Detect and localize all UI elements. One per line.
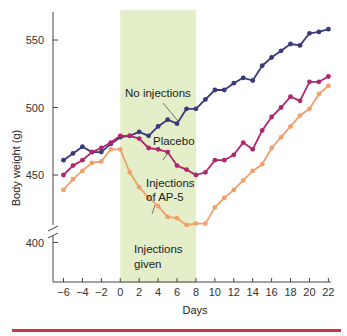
data-point <box>61 188 66 193</box>
data-point <box>90 160 95 165</box>
data-point <box>279 135 284 140</box>
data-point <box>250 147 255 152</box>
x-tick-label: 16 <box>265 286 277 298</box>
data-point <box>175 121 180 126</box>
data-point <box>279 48 284 53</box>
data-point <box>184 167 189 172</box>
data-point <box>307 31 312 36</box>
data-point <box>61 173 66 178</box>
annotation-injections-given-line1: Injections <box>134 243 183 255</box>
y-axis-title: Body weight (g) <box>10 130 22 206</box>
data-point <box>108 147 113 152</box>
data-point <box>146 133 151 138</box>
data-point <box>175 216 180 221</box>
data-point <box>165 215 170 220</box>
x-tick-label: 22 <box>322 286 334 298</box>
data-point <box>269 115 274 120</box>
data-point <box>288 42 293 47</box>
data-point <box>99 159 104 164</box>
data-point <box>137 136 142 141</box>
data-point <box>241 178 246 183</box>
data-point <box>80 158 85 163</box>
data-point <box>298 43 303 48</box>
data-point <box>108 140 113 145</box>
data-point <box>307 79 312 84</box>
y-tick-label: 500 <box>26 102 44 114</box>
x-tick-label: −4 <box>76 286 89 298</box>
data-point <box>317 79 322 84</box>
data-point <box>260 162 265 167</box>
data-point <box>146 146 151 151</box>
data-point <box>288 94 293 99</box>
data-point <box>99 150 104 155</box>
data-point <box>298 98 303 103</box>
annotation-placebo: Placebo <box>153 135 195 147</box>
y-axis: 400450500550 <box>26 12 58 282</box>
data-point <box>269 55 274 60</box>
data-point <box>222 196 227 201</box>
data-point <box>194 221 199 226</box>
data-point <box>279 105 284 110</box>
data-point <box>213 205 218 210</box>
y-tick-label: 400 <box>26 237 44 249</box>
data-point <box>213 88 218 93</box>
data-point <box>184 106 189 111</box>
x-tick-label: 14 <box>247 286 259 298</box>
x-tick-label: 20 <box>303 286 315 298</box>
data-point <box>222 158 227 163</box>
y-tick-label: 450 <box>26 169 44 181</box>
x-tick-label: 18 <box>284 286 296 298</box>
x-tick-label: 6 <box>174 286 180 298</box>
data-point <box>326 27 331 32</box>
data-point <box>260 128 265 133</box>
data-point <box>127 133 132 138</box>
data-point <box>260 63 265 68</box>
data-point <box>80 169 85 174</box>
data-point <box>250 169 255 174</box>
x-tick-label: 0 <box>117 286 123 298</box>
data-point <box>99 146 104 151</box>
data-point <box>269 146 274 151</box>
annotation-no-injections: No injections <box>125 87 191 99</box>
data-point <box>250 78 255 83</box>
data-point <box>317 30 322 35</box>
data-point <box>71 177 76 182</box>
data-point <box>326 74 331 79</box>
annotation-injections-given-line2: given <box>134 258 162 270</box>
data-point <box>203 97 208 102</box>
annotation-ap5-line2: of AP-5 <box>146 191 184 203</box>
data-point <box>156 147 161 152</box>
y-tick-label: 550 <box>26 34 44 46</box>
data-point <box>241 75 246 80</box>
data-point <box>194 106 199 111</box>
data-point <box>156 124 161 129</box>
data-point <box>118 133 123 138</box>
data-point <box>118 147 123 152</box>
series-injections-of-ap-5 <box>61 84 331 228</box>
data-point <box>71 151 76 156</box>
data-point <box>184 223 189 228</box>
x-tick-label: 4 <box>155 286 161 298</box>
data-point <box>156 204 161 209</box>
data-point <box>231 152 236 157</box>
footer-rule <box>12 329 341 332</box>
data-point <box>80 144 85 149</box>
data-point <box>203 221 208 226</box>
data-point <box>90 150 95 155</box>
x-axis-title: Days <box>182 304 208 316</box>
body-weight-chart: 400450500550 −6−4−20246810121416182022 D… <box>0 0 347 336</box>
x-tick-label: 10 <box>209 286 221 298</box>
data-point <box>241 140 246 145</box>
x-tick-label: 12 <box>228 286 240 298</box>
data-point <box>326 84 331 89</box>
data-point <box>203 170 208 175</box>
data-point <box>298 113 303 118</box>
data-point <box>137 185 142 190</box>
data-point <box>222 88 227 93</box>
data-point <box>61 158 66 163</box>
series-line <box>64 29 329 160</box>
x-tick-label: −2 <box>95 286 108 298</box>
annotation-ap5-line1: Injections <box>146 177 195 189</box>
x-tick-label: 8 <box>193 286 199 298</box>
x-tick-label: −6 <box>57 286 70 298</box>
